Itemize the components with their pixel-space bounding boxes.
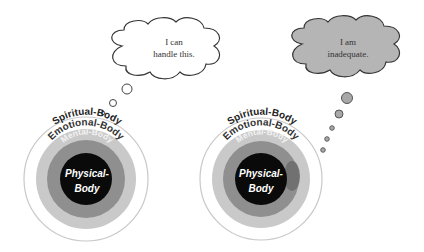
right-thought-bubble-1 [342, 93, 353, 104]
left-thought-line1: I can [165, 37, 183, 47]
energy-bodies-diagram: I can handle this. Spiritual-Body Emotio… [0, 0, 424, 252]
right-thought-line2: inadequate. [327, 49, 368, 59]
left-thought-bubble-large [122, 84, 132, 94]
right-thought-cloud: I am inadequate. [292, 16, 400, 77]
left-thought-line2: handle this. [153, 49, 195, 59]
left-physical-label-line1: Physical- [65, 168, 110, 179]
right-thought-bubble-2 [335, 110, 343, 118]
right-physical-body-core [235, 153, 287, 205]
left-physical-body-core [60, 153, 112, 205]
left-thought-cloud: I can handle this. [112, 18, 220, 79]
right-thought-bubble-4 [325, 137, 330, 142]
right-thought-line1: I am [340, 37, 356, 47]
right-physical-label-line2: Body [249, 183, 274, 194]
right-physical-label-line1: Physical- [239, 168, 284, 179]
left-physical-label-line2: Body [75, 183, 100, 194]
right-figure: I am inadequate. Spiritual-Body Emotiona… [200, 16, 400, 240]
right-thought-bubble-3 [330, 126, 335, 131]
right-thought-bubble-5 [321, 148, 326, 153]
left-figure: I can handle this. Spiritual-Body Emotio… [24, 18, 220, 241]
left-thought-bubble-medium [110, 100, 117, 107]
